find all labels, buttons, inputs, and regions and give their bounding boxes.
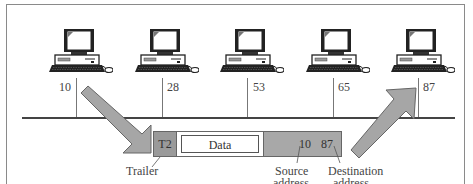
destination-annotation-line2: address — [333, 176, 369, 184]
source-annotation-line2: address — [273, 176, 309, 184]
leader-lines — [0, 0, 473, 184]
trailer-annotation: Trailer — [126, 164, 158, 179]
